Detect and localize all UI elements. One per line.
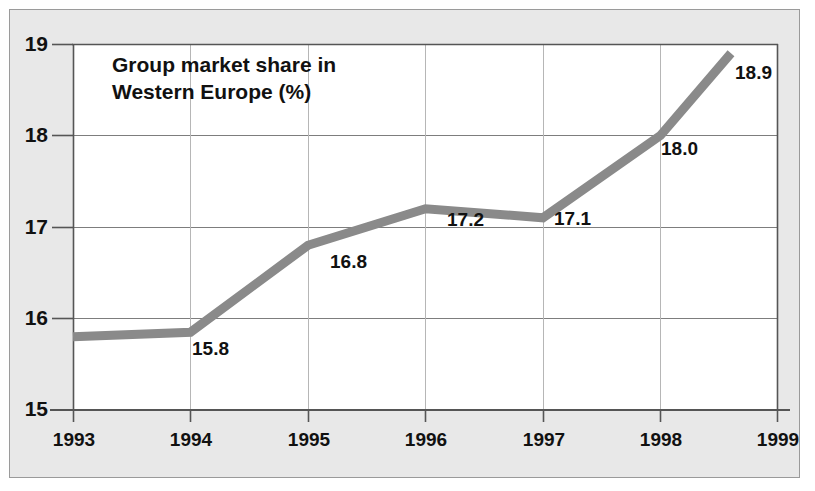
- y-tick-label-18: 18: [2, 123, 48, 147]
- data-label-1995: 16.8: [330, 251, 367, 273]
- chart-title: Group market share in Western Europe (%): [112, 52, 336, 106]
- x-tick-label-1994: 1994: [146, 429, 236, 451]
- y-tick-label-16: 16: [2, 306, 48, 330]
- data-label-1997: 17.1: [554, 208, 591, 230]
- data-label-1996: 17.2: [447, 209, 484, 231]
- y-tick-label-19: 19: [2, 32, 48, 56]
- x-tick-label-1995: 1995: [264, 429, 354, 451]
- data-label-1994: 15.8: [192, 338, 229, 360]
- x-tick-label-1996: 1996: [381, 429, 471, 451]
- data-label-1998: 18.0: [661, 138, 698, 160]
- x-tick-label-1998: 1998: [616, 429, 706, 451]
- x-tick-label-1999: 1999: [733, 429, 815, 451]
- chart-figure: 19 18 17 16 15 1993 1994 1995 1996 1997 …: [0, 0, 815, 491]
- y-tick-label-17: 17: [2, 215, 48, 239]
- x-tick-label-1993: 1993: [29, 429, 119, 451]
- y-tick-label-15: 15: [2, 397, 48, 421]
- data-label-1999: 18.9: [735, 62, 772, 84]
- x-tick-label-1997: 1997: [499, 429, 589, 451]
